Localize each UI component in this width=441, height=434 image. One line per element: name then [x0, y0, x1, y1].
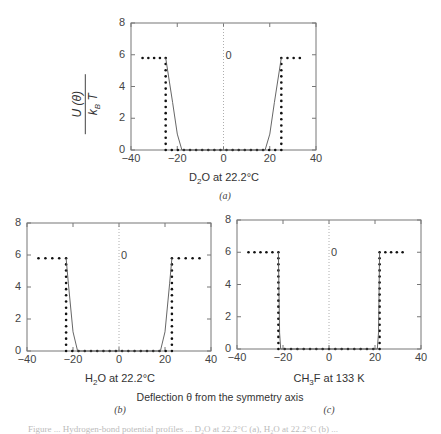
plot-area — [237, 220, 421, 349]
zero-annotation: 0 — [331, 246, 337, 258]
y-tick-label: 4 — [119, 80, 125, 92]
y-label-denominator: kB T — [86, 74, 102, 134]
x-tick-label: 20 — [153, 353, 177, 365]
x-tick-label: −20 — [271, 351, 295, 363]
x-label-a: D2O at 22.2°C — [174, 171, 274, 186]
figure-caption-partial: Figure ... Hydrogen-bond potential profi… — [28, 424, 338, 434]
x-tick-label: 0 — [107, 353, 131, 365]
y-tick-label: 2 — [225, 310, 231, 322]
x-tick-label: 20 — [258, 152, 282, 164]
plot-frame — [237, 220, 421, 349]
x-tick-label: −40 — [225, 351, 249, 363]
x-label-c: CH3F at 133 K — [279, 372, 379, 387]
dotted-square-well — [247, 251, 404, 350]
panel-label-c: (c) — [309, 404, 349, 415]
x-tick-label: 20 — [363, 351, 387, 363]
zero-annotation: 0 — [226, 49, 232, 61]
dotted-square-well — [141, 57, 301, 152]
plot-area — [27, 223, 211, 351]
zero-annotation: 0 — [121, 249, 127, 261]
x-tick-label: 40 — [409, 351, 433, 363]
plot-area — [131, 23, 316, 150]
y-tick-label: 6 — [15, 248, 21, 260]
common-x-axis-label: Deflection θ from the symmetry axis — [120, 391, 320, 403]
y-tick-label: 2 — [119, 111, 125, 123]
x-label-b: H2O at 22.2°C — [70, 372, 170, 387]
x-tick-label: 40 — [199, 353, 223, 365]
y-tick-label: 8 — [15, 216, 21, 228]
panel-label-a: (a) — [205, 190, 245, 201]
y-tick-label: 2 — [15, 312, 21, 324]
y-tick-label: 6 — [225, 245, 231, 257]
y-label-numerator: U (θ) — [70, 74, 86, 134]
y-tick-label: 6 — [119, 48, 125, 60]
x-tick-label: −40 — [119, 152, 143, 164]
y-axis-label: U (θ) kB T — [70, 74, 102, 134]
x-tick-label: −40 — [15, 353, 39, 365]
x-tick-label: 40 — [304, 152, 328, 164]
x-tick-label: −20 — [61, 353, 85, 365]
x-tick-label: 0 — [317, 351, 341, 363]
x-tick-label: 0 — [212, 152, 236, 164]
y-tick-label: 8 — [119, 16, 125, 28]
x-tick-label: −20 — [165, 152, 189, 164]
panel-label-b: (b) — [100, 404, 140, 415]
y-tick-label: 8 — [225, 213, 231, 225]
y-tick-label: 4 — [15, 280, 21, 292]
y-tick-label: 4 — [225, 278, 231, 290]
